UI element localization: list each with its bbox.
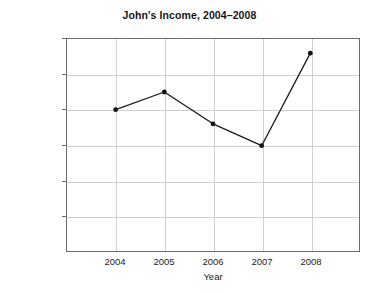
data-point-marker xyxy=(162,90,167,95)
data-point-marker xyxy=(211,121,216,126)
y-axis-tick-mark xyxy=(62,38,66,39)
y-axis-tick-mark xyxy=(62,181,66,182)
chart-title: John's Income, 2004–2008 xyxy=(0,9,379,21)
x-axis-title: Year xyxy=(66,271,360,282)
income-line-chart: John's Income, 2004–2008 $ 5,000$ 10,000… xyxy=(0,0,379,293)
data-point-marker xyxy=(308,51,313,56)
data-series-line xyxy=(67,39,359,251)
y-axis-tick-mark xyxy=(62,109,66,110)
x-axis-tick-label: 2008 xyxy=(281,256,341,267)
data-point-marker xyxy=(259,143,264,148)
y-axis-tick-mark xyxy=(62,145,66,146)
y-axis-tick-mark xyxy=(62,74,66,75)
y-axis-tick-mark xyxy=(62,216,66,217)
plot-area xyxy=(66,38,360,252)
series-polyline xyxy=(116,53,311,146)
data-point-marker xyxy=(113,107,118,112)
